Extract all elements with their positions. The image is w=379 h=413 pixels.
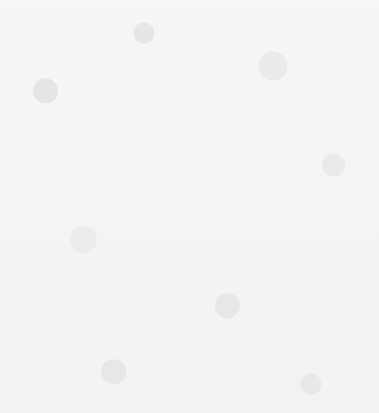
bar-industry xyxy=(189,102,315,111)
value-axis-baseline xyxy=(189,388,336,389)
bar-aggregate xyxy=(189,258,327,267)
chart-row: Electrical and electronic equipment20.1 xyxy=(0,319,379,341)
bar-industry xyxy=(189,281,307,290)
bar-industry xyxy=(189,34,338,43)
bar-value-label: 18.8 xyxy=(328,184,342,206)
category-label: HIGH TECHNOLOGY xyxy=(0,341,186,363)
bar-industry xyxy=(189,191,325,200)
bar-value-label: 19.2 xyxy=(331,50,345,72)
category-label: Wood and wood products xyxy=(0,50,186,72)
chart-row: Publishing, printing and reproduction of… xyxy=(0,95,379,117)
category-label: Machinery and equipment xyxy=(0,296,186,318)
bar-value-label: 16.4 xyxy=(310,274,324,296)
bar-value-label: 19.0 xyxy=(330,251,344,273)
chart-row: HIGH TECHNOLOGY16.5 xyxy=(0,341,379,363)
chart-row: Wood and wood products19.2 xyxy=(0,50,379,72)
bar-aggregate xyxy=(189,146,322,155)
chart-row: Precision instruments16.5 xyxy=(0,363,379,385)
category-label: Chemicals and chemical products xyxy=(0,162,186,184)
category-label: Textiles, clothing and leather xyxy=(0,117,186,139)
bar-aggregate xyxy=(189,12,321,21)
category-label: Other manufacturing xyxy=(0,72,186,94)
category-label: Rubber and plastic products xyxy=(0,207,186,229)
bar-value-label: 17.1 xyxy=(316,296,330,318)
bar-value-label: 19.0 xyxy=(330,162,344,184)
bar-value-label: 19.1 xyxy=(330,72,344,94)
bar-industry xyxy=(189,236,309,245)
bar-industry xyxy=(189,303,313,312)
category-label: Motor vehicles and other transport equip… xyxy=(0,274,186,296)
bar-industry xyxy=(189,57,328,66)
bar-value-label: 16.9 xyxy=(314,117,328,139)
category-label: Publishing, printing and reproduction of… xyxy=(0,95,186,117)
bar-value-label: 16.6 xyxy=(312,229,326,251)
category-label: Electrical and electronic equipment xyxy=(0,319,186,341)
chart-row: Textiles, clothing and leather16.9 xyxy=(0,117,379,139)
chart-row: Other manufacturing19.1 xyxy=(0,72,379,94)
chart-row: Non-metallic mineral products16.6 xyxy=(0,229,379,251)
bar-industry xyxy=(189,124,311,133)
chart-row: MEDIUM-HIGH TECHNOLOGY19.0 xyxy=(0,251,379,273)
bar-value-label: 18.2 xyxy=(324,5,338,27)
chart-row: Food, beverages and tobacco20.5 xyxy=(0,27,379,49)
bar-aggregate xyxy=(189,348,308,357)
industry-average-caption: Industry average: 18.1% xyxy=(225,394,309,403)
category-label: Precision instruments xyxy=(0,363,186,385)
bar-value-label: 16.5 xyxy=(311,341,325,363)
bar-industry xyxy=(189,79,327,88)
bar-value-label: 18.4 xyxy=(325,139,339,161)
bar-industry xyxy=(189,214,319,223)
chart-row: Machinery and equipment17.1 xyxy=(0,296,379,318)
horizontal-bar-chart: LOW TECHNOLOGY18.2Food, beverages and to… xyxy=(0,0,379,413)
bar-value-label: 20.5 xyxy=(341,27,355,49)
bar-industry xyxy=(189,326,335,335)
chart-row: LOW-MEDIUM TECHNOLOGY18.4 xyxy=(0,139,379,161)
chart-row: Chemicals and chemical products19.0 xyxy=(0,162,379,184)
bar-value-label: 17.9 xyxy=(322,207,336,229)
bar-value-label: 16.5 xyxy=(311,363,325,385)
category-label: MEDIUM-HIGH TECHNOLOGY xyxy=(0,251,186,273)
category-label: LOW-MEDIUM TECHNOLOGY xyxy=(0,139,186,161)
bar-industry xyxy=(189,370,308,379)
category-label: Food, beverages and tobacco xyxy=(0,27,186,49)
industry-average-reference-line xyxy=(320,6,321,385)
chart-row: Metal and metal products18.8 xyxy=(0,184,379,206)
category-label: Metal and metal products xyxy=(0,184,186,206)
category-label: Non-metallic mineral products xyxy=(0,229,186,251)
chart-row: Rubber and plastic products17.9 xyxy=(0,207,379,229)
category-label: LOW TECHNOLOGY xyxy=(0,5,186,27)
chart-row: Motor vehicles and other transport equip… xyxy=(0,274,379,296)
plot-area: LOW TECHNOLOGY18.2Food, beverages and to… xyxy=(0,0,379,413)
bar-industry xyxy=(189,169,327,178)
bar-value-label: 20.1 xyxy=(338,319,352,341)
category-axis-line xyxy=(189,6,190,388)
chart-row: LOW TECHNOLOGY18.2 xyxy=(0,5,379,27)
